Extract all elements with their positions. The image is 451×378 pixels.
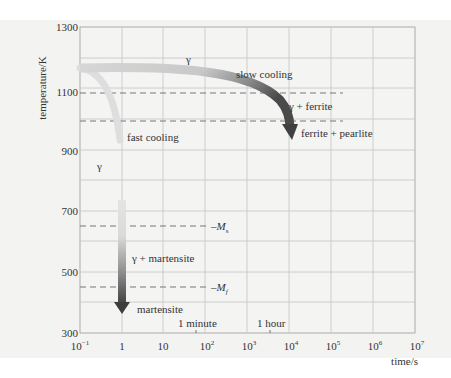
fast-cooling-label: fast cooling bbox=[127, 131, 179, 143]
y-tick: 1300 bbox=[56, 21, 79, 33]
x-tick-labels: 10−1 1 10 102 103 104 105 106 107 bbox=[71, 339, 425, 352]
x-tick: 10−1 bbox=[71, 339, 90, 352]
x-tick: 107 bbox=[410, 339, 425, 352]
slow-cooling-label: slow cooling bbox=[236, 68, 293, 80]
quench-arrow bbox=[118, 200, 126, 303]
x-tick: 102 bbox=[200, 339, 215, 352]
y-tick-labels: 1300 1100 900 700 500 300 bbox=[56, 21, 79, 339]
y-tick: 900 bbox=[62, 145, 79, 157]
y-axis-label: temperature/K bbox=[36, 56, 48, 120]
x-tick: 10 bbox=[158, 340, 170, 352]
gamma-martensite-label: γ + martensite bbox=[131, 252, 194, 264]
y-tick: 1100 bbox=[56, 86, 78, 98]
gamma-ferrite-label: γ + ferrite bbox=[288, 100, 333, 112]
martensite-label: martensite bbox=[137, 303, 183, 315]
y-tick: 300 bbox=[62, 327, 79, 339]
ttt-diagram: 1300 1100 900 700 500 300 temperature/K … bbox=[0, 0, 451, 378]
x-tick: 106 bbox=[368, 339, 383, 352]
gamma-region-label: γ bbox=[185, 53, 191, 65]
one-minute-label: 1 minute bbox=[178, 317, 217, 329]
y-tick: 700 bbox=[62, 205, 79, 217]
x-axis-label: time/s bbox=[391, 355, 418, 367]
x-tick: 103 bbox=[242, 339, 257, 352]
x-tick: 1 bbox=[119, 340, 125, 352]
gamma-left-label: γ bbox=[96, 160, 102, 172]
x-tick: 105 bbox=[326, 339, 341, 352]
x-tick: 104 bbox=[284, 339, 299, 352]
ferrite-pearlite-label: ferrite + pearlite bbox=[301, 127, 373, 139]
y-tick: 500 bbox=[62, 266, 79, 278]
one-hour-label: 1 hour bbox=[257, 317, 286, 329]
